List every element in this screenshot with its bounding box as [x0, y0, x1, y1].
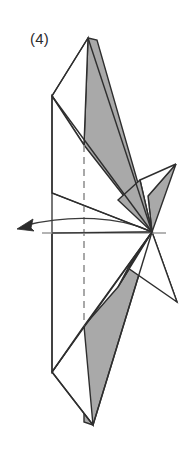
origami-figure: (4) [0, 0, 192, 454]
rotation-arrow-head [17, 219, 34, 231]
step-number-label: (4) [30, 31, 49, 46]
origami-diagram-svg [0, 0, 192, 454]
